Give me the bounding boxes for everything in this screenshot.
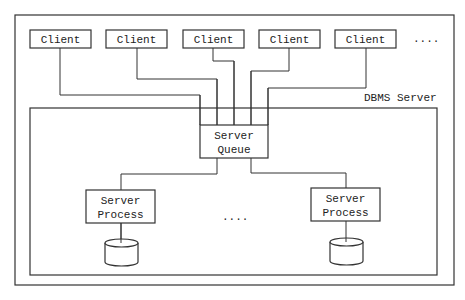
client-box-1: Client bbox=[30, 30, 91, 48]
server-process-box-1: Server Process bbox=[86, 190, 155, 223]
client-box-2: Client bbox=[106, 30, 167, 48]
clients-ellipsis: .... bbox=[413, 33, 439, 45]
svg-text:Client: Client bbox=[270, 34, 310, 46]
processes-ellipsis: .... bbox=[222, 211, 248, 223]
client-box-4: Client bbox=[259, 30, 320, 48]
svg-text:Server: Server bbox=[101, 195, 141, 207]
svg-text:Server: Server bbox=[214, 130, 254, 142]
svg-text:Client: Client bbox=[346, 34, 386, 46]
svg-text:Client: Client bbox=[41, 34, 81, 46]
dbms-architecture-diagram: DBMS Server Client Client Client Client … bbox=[0, 0, 465, 300]
client-box-3: Client bbox=[183, 30, 244, 48]
svg-text:Process: Process bbox=[322, 207, 368, 219]
server-process-box-2: Server Process bbox=[311, 188, 380, 221]
server-queue-box: Server Queue bbox=[200, 125, 268, 158]
svg-text:Client: Client bbox=[194, 34, 234, 46]
svg-text:Server: Server bbox=[326, 193, 366, 205]
svg-text:Queue: Queue bbox=[217, 144, 250, 156]
dbms-server-label: DBMS Server bbox=[364, 92, 437, 104]
svg-text:Process: Process bbox=[97, 209, 143, 221]
svg-text:Client: Client bbox=[117, 34, 157, 46]
client-box-5: Client bbox=[335, 30, 396, 48]
